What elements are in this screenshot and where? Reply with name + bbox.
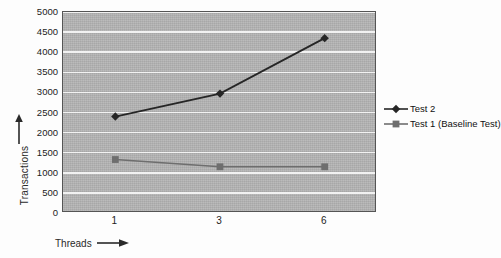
y-axis-tick-label: 3500	[14, 66, 58, 77]
arrow-right-icon	[97, 238, 129, 248]
x-axis-tick-label: 6	[304, 215, 344, 226]
y-axis-tick-label: 4000	[14, 46, 58, 57]
y-axis-tick-label: 1500	[14, 146, 58, 157]
diamond-marker-icon	[216, 89, 224, 97]
legend-item[interactable]: Test 2	[383, 101, 499, 116]
square-marker-icon	[112, 156, 119, 163]
legend-label: Test 1 (Baseline Test)	[410, 118, 501, 129]
x-axis-tick-labels: 136	[62, 215, 376, 233]
chart-figure: Transactions 050010001500200025003000350…	[0, 0, 501, 258]
square-marker-icon	[383, 118, 409, 130]
series-layer	[63, 12, 376, 212]
series-line	[115, 38, 324, 116]
x-axis-title: Threads	[55, 238, 92, 249]
square-marker-icon	[217, 163, 224, 170]
diamond-marker-icon	[111, 112, 119, 120]
square-marker-icon	[393, 120, 400, 127]
diamond-marker-icon	[320, 34, 328, 42]
y-axis-tick-label: 4500	[14, 26, 58, 37]
plot-area	[62, 11, 376, 212]
x-axis-tick-label: 1	[94, 215, 134, 226]
y-axis-tick-label: 5000	[14, 6, 58, 17]
diamond-marker-icon	[383, 103, 409, 115]
y-axis-tick-label: 3000	[14, 86, 58, 97]
y-axis-tick-label: 2500	[14, 106, 58, 117]
x-axis-title-group: Threads	[55, 234, 129, 252]
chart-legend: Test 2Test 1 (Baseline Test)	[383, 101, 499, 131]
y-axis-tick-label: 500	[14, 186, 58, 197]
legend-label: Test 2	[410, 103, 435, 114]
y-axis-tick-label: 2000	[14, 126, 58, 137]
y-axis-tick-label: 0	[14, 207, 58, 218]
square-marker-icon	[321, 163, 328, 170]
diamond-marker-icon	[392, 104, 400, 112]
x-axis-tick-label: 3	[199, 215, 239, 226]
legend-item[interactable]: Test 1 (Baseline Test)	[383, 116, 499, 131]
y-axis-tick-labels: 0500100015002000250030003500400045005000	[14, 6, 58, 218]
y-axis-tick-label: 1000	[14, 166, 58, 177]
